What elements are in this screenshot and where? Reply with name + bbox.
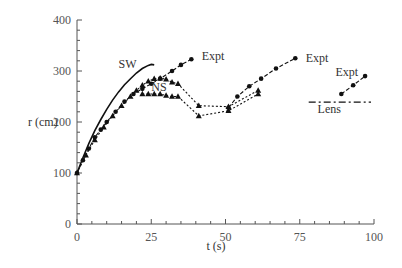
circle-marker — [274, 66, 279, 71]
circle-marker — [235, 94, 240, 99]
y-tick-label: 300 — [53, 64, 71, 78]
series-line-expt-segment-1 — [77, 59, 191, 173]
x-tick-label: 0 — [74, 230, 80, 244]
circle-marker — [259, 76, 264, 81]
annotation-sw: SW — [119, 57, 138, 71]
annotation-lens: Lens — [318, 102, 342, 116]
annotations-layer: SWNSExptExptExptLens — [119, 49, 359, 116]
circle-marker — [189, 57, 194, 62]
triangle-marker — [139, 82, 145, 88]
circle-marker — [339, 92, 344, 97]
y-tick-label: 0 — [65, 217, 71, 231]
y-tick-label: 100 — [53, 166, 71, 180]
triangle-marker — [139, 91, 145, 97]
circle-marker — [351, 83, 356, 88]
circle-marker — [179, 63, 184, 68]
circle-marker — [247, 84, 252, 89]
circle-marker — [170, 69, 175, 74]
annotation-ns: NS — [151, 80, 166, 94]
triangle-marker — [175, 81, 181, 87]
chart: 01002003004000255075100 SWNSExptExptExpt… — [0, 0, 402, 268]
series-line-expt-segment-2 — [229, 58, 296, 107]
x-axis-label: t (s) — [207, 239, 226, 253]
series-line-ns-lower — [142, 94, 258, 116]
y-axis-label: r (cm) — [28, 115, 58, 129]
annotation-expt: Expt — [202, 49, 225, 63]
circle-marker — [226, 105, 231, 110]
series-line-sw — [77, 64, 154, 173]
circle-marker — [363, 74, 368, 79]
y-tick-label: 400 — [53, 13, 71, 27]
x-tick-label: 25 — [145, 230, 157, 244]
triangle-marker — [169, 79, 175, 85]
x-tick-label: 100 — [365, 230, 383, 244]
x-tick-label: 75 — [294, 230, 306, 244]
annotation-expt: Expt — [335, 65, 358, 79]
annotation-expt: Expt — [306, 51, 329, 65]
circle-marker — [293, 56, 298, 61]
